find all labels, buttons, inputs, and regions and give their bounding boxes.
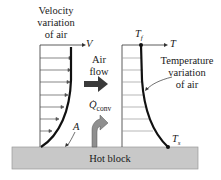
velocity-label-line: Velocity: [36, 5, 76, 17]
t-axis-label: T: [170, 38, 176, 50]
velocity-label-line: variation: [36, 17, 76, 29]
tf-label: Tf: [135, 28, 143, 44]
heat-flow-arrow-icon: [92, 115, 108, 147]
velocity-arrows: [40, 57, 72, 133]
velocity-profile-curve: [41, 47, 71, 147]
air-flow-arrow-icon: [84, 76, 108, 92]
velocity-label: Velocity variation of air: [36, 5, 76, 41]
air-flow-label-line: flow: [88, 66, 110, 78]
hot-block-label: Hot block: [80, 153, 140, 165]
v-axis-label: V: [86, 38, 92, 50]
ts-point: [166, 145, 170, 149]
temperature-label: Temperature variation of air: [155, 55, 219, 91]
temperature-label-line: variation: [155, 67, 219, 79]
point-a-label: A: [73, 121, 79, 133]
q-dot: ·: [92, 96, 95, 105]
air-flow-label: Air flow: [88, 54, 110, 78]
air-flow-label-line: Air: [88, 54, 110, 66]
temperature-grid-lines: [122, 58, 153, 131]
temperature-label-line: Temperature: [155, 55, 219, 67]
ts-label: Ts: [172, 133, 181, 149]
q-subscript: conv: [97, 104, 112, 113]
tf-subscript: f: [141, 34, 143, 42]
velocity-label-line: of air: [36, 29, 76, 41]
ts-subscript: s: [178, 139, 181, 147]
temperature-label-line: of air: [155, 79, 219, 91]
